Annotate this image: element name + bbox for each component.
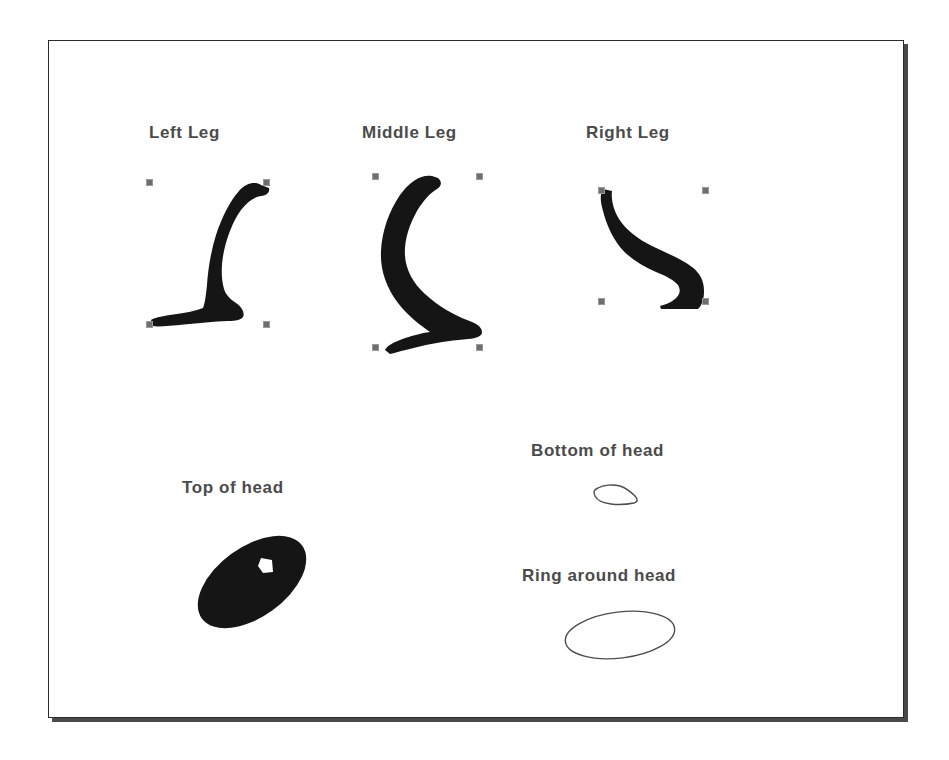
- figure-frame: Left Leg Middle Leg Right Leg Top of hea…: [48, 40, 904, 718]
- label-right-leg: Right Leg: [586, 123, 670, 143]
- ring-around-head-ellipse: [563, 605, 678, 664]
- ring-around-head-svg: [557, 605, 683, 665]
- handle-right-leg-tl[interactable]: [598, 187, 605, 194]
- left-leg-svg: [146, 179, 276, 329]
- handle-right-leg-tr[interactable]: [702, 187, 709, 194]
- top-of-head-svg: [187, 531, 317, 633]
- shape-ring-around-head[interactable]: [557, 605, 683, 665]
- shape-left-leg[interactable]: [146, 179, 276, 329]
- handle-left-leg-tl[interactable]: [146, 179, 153, 186]
- handle-middle-leg-tr[interactable]: [476, 173, 483, 180]
- handle-middle-leg-bl[interactable]: [372, 344, 379, 351]
- label-left-leg: Left Leg: [149, 123, 220, 143]
- right-leg-path: [601, 189, 704, 309]
- handle-middle-leg-tl[interactable]: [372, 173, 379, 180]
- handle-right-leg-bl[interactable]: [598, 298, 605, 305]
- label-ring-around-head: Ring around head: [522, 566, 676, 586]
- bottom-of-head-path: [594, 485, 637, 504]
- handle-left-leg-bl[interactable]: [146, 321, 153, 328]
- shape-right-leg[interactable]: [598, 187, 716, 309]
- left-leg-path: [151, 183, 269, 326]
- handle-middle-leg-br[interactable]: [476, 344, 483, 351]
- shape-middle-leg[interactable]: [372, 173, 490, 355]
- label-top-of-head: Top of head: [182, 478, 284, 498]
- handle-left-leg-tr[interactable]: [263, 179, 270, 186]
- middle-leg-path: [381, 176, 482, 354]
- right-leg-svg: [598, 187, 716, 309]
- label-bottom-of-head: Bottom of head: [531, 441, 664, 461]
- handle-left-leg-br[interactable]: [263, 321, 270, 328]
- middle-leg-svg: [372, 173, 490, 355]
- shape-top-of-head[interactable]: [187, 531, 317, 633]
- top-of-head-ellipse: [181, 517, 322, 647]
- shape-bottom-of-head[interactable]: [589, 481, 645, 513]
- handle-right-leg-br[interactable]: [702, 298, 709, 305]
- label-middle-leg: Middle Leg: [362, 123, 457, 143]
- bottom-of-head-svg: [589, 481, 645, 513]
